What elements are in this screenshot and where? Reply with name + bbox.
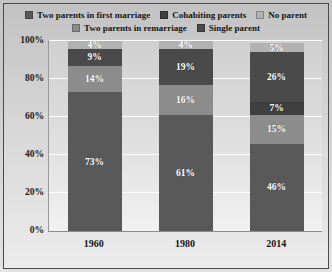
legend-item[interactable]: No parent — [256, 10, 307, 20]
x-axis: 196019802014 — [48, 233, 322, 257]
legend-item[interactable]: Single parent — [197, 23, 260, 33]
bar-segment-label: 46% — [267, 182, 286, 192]
chart-root: Two parents in first marriageCohabiting … — [0, 0, 332, 272]
bar-segment[interactable]: 9% — [68, 49, 122, 66]
bar-segment[interactable]: 15% — [250, 115, 304, 144]
legend-swatch-icon — [72, 24, 80, 32]
y-axis-tick: 40% — [25, 149, 44, 159]
bar-segment[interactable]: 16% — [159, 85, 213, 115]
y-axis-tick: 80% — [25, 73, 44, 83]
legend-swatch-icon — [25, 11, 33, 19]
legend-item-label: Two parents in remarriage — [84, 23, 187, 33]
legend-item-label: Cohabiting parents — [172, 10, 246, 20]
legend-item-label: No parent — [268, 10, 307, 20]
x-axis-tick: 1960 — [67, 233, 121, 249]
bar-segment-label: 5% — [269, 43, 283, 53]
legend-item[interactable]: Two parents in first marriage — [25, 10, 150, 20]
bar-segment[interactable]: 4% — [159, 41, 213, 49]
bar-segment[interactable]: 19% — [159, 49, 213, 85]
bar-segment-label: 15% — [267, 124, 286, 134]
legend-swatch-icon — [256, 11, 264, 19]
bar-segment[interactable]: 5% — [250, 43, 304, 53]
legend-item-label: Single parent — [209, 23, 260, 33]
legend-item[interactable]: Cohabiting parents — [160, 10, 246, 20]
bar-segment[interactable]: 4% — [68, 41, 122, 49]
y-axis: 100%80%60%40%20%0% — [4, 40, 48, 232]
y-axis-tick: 0% — [30, 225, 44, 235]
bar-segment[interactable]: 14% — [68, 66, 122, 93]
bar-segment-label: 19% — [176, 62, 195, 72]
x-axis-tick: 1980 — [158, 233, 212, 249]
plot-area: 4%9%14%73%4%19%16%61%5%26%7%15%46% — [48, 40, 322, 232]
plot-wrapper: 100%80%60%40%20%0% 4%9%14%73%4%19%16%61%… — [4, 40, 330, 268]
bar-segment-label: 26% — [267, 72, 286, 82]
bar-segment-label: 14% — [85, 74, 104, 84]
bar-segment-label: 61% — [176, 168, 195, 178]
bar-segment-label: 73% — [85, 157, 104, 167]
bar-segment[interactable]: 61% — [159, 115, 213, 231]
chart-legend: Two parents in first marriageCohabiting … — [4, 8, 328, 34]
legend-item[interactable]: Two parents in remarriage — [72, 23, 187, 33]
bar-column[interactable]: 4%19%16%61% — [159, 40, 213, 231]
bar-column[interactable]: 4%9%14%73% — [68, 40, 122, 231]
bar-segment[interactable]: 26% — [250, 52, 304, 101]
legend-swatch-icon — [197, 24, 205, 32]
bar-segment-label: 9% — [87, 52, 101, 62]
bar-segment[interactable]: 7% — [250, 102, 304, 115]
legend-item-label: Two parents in first marriage — [37, 10, 150, 20]
legend-swatch-icon — [160, 11, 168, 19]
y-axis-tick: 20% — [25, 187, 44, 197]
chart-frame: Two parents in first marriageCohabiting … — [3, 3, 329, 269]
bar-segment[interactable]: 46% — [250, 144, 304, 231]
bar-segment[interactable]: 73% — [68, 92, 122, 231]
y-axis-tick: 60% — [25, 111, 44, 121]
x-axis-tick: 2014 — [249, 233, 303, 249]
bars-container: 4%9%14%73%4%19%16%61%5%26%7%15%46% — [49, 40, 322, 231]
legend-row-2: Two parents in remarriageSingle parent — [10, 21, 322, 34]
y-axis-tick: 100% — [20, 35, 44, 45]
legend-row-1: Two parents in first marriageCohabiting … — [10, 8, 322, 21]
bar-segment-label: 7% — [269, 103, 283, 113]
bar-segment-label: 16% — [176, 95, 195, 105]
bar-column[interactable]: 5%26%7%15%46% — [250, 40, 304, 231]
